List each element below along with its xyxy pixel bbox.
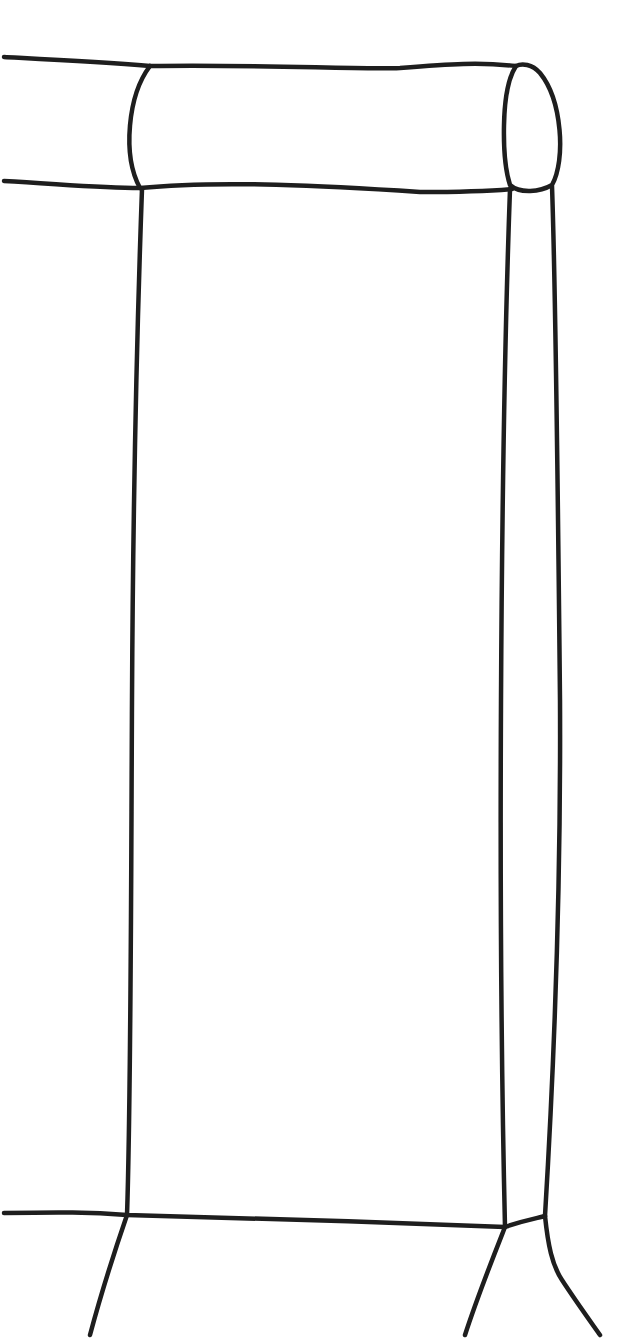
drawing-background bbox=[0, 0, 631, 1339]
furniture-line-drawing bbox=[0, 0, 631, 1339]
